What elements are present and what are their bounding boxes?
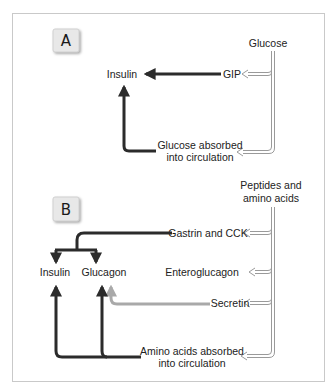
panel-a-label-box: A [53,29,79,52]
amino-absorbed-line1: Amino acids absorbed [140,345,244,357]
panel-b-label-box: B [53,197,79,221]
peptides-label-line1: Peptides and [240,179,301,191]
gastrin-cck-label: Gastrin and CCK [168,227,247,239]
glucose-absorbed-to-insulin-arrow [124,87,156,151]
insulin-b-label: Insulin [40,266,71,278]
diagram-canvas: A Glucose GIP Insulin Glucose absorbed i… [0,0,332,392]
gastrin-to-islets-arrow [55,233,172,262]
panel-a: A Glucose GIP Insulin Glucose absorbed i… [53,29,287,163]
amino-acids-to-islets-arrow [56,287,141,357]
enteroglucagon-label: Enteroglucagon [165,266,239,278]
gip-label: GIP [223,68,241,80]
amino-absorbed-line2: into circulation [158,357,225,369]
glucagon-label: Glucagon [82,266,127,278]
panel-b: B Peptides and amino acids Gastrin and C… [40,179,302,369]
secretin-label: Secretin [211,297,250,309]
glucose-hollow-pathway [237,51,275,156]
panel-b-label: B [61,201,71,219]
secretin-to-glucagon-arrow [111,287,210,304]
peptides-label-line2: amino acids [243,192,299,204]
glucose-label: Glucose [249,37,288,49]
panel-a-label: A [61,32,72,50]
glucose-absorbed-line1: Glucose absorbed [157,139,242,151]
insulin-a-label: Insulin [107,68,138,80]
glucose-absorbed-line2: into circulation [166,151,233,163]
